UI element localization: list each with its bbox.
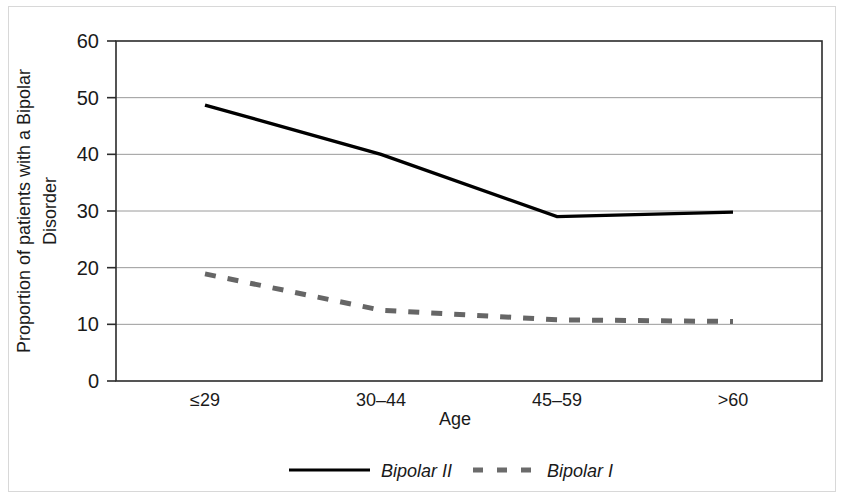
y-tick-label: 0: [88, 370, 99, 392]
x-tick-label: >60: [718, 390, 749, 410]
series-bipolar-ii-line: [205, 105, 733, 217]
y-tick-labels: 0102030405060: [77, 30, 99, 392]
series-bipolar-i-line: [205, 274, 733, 322]
chart-legend: Bipolar II Bipolar I: [289, 461, 613, 481]
y-tick-marks: [107, 41, 116, 381]
legend-label-bipolar-ii: Bipolar II: [381, 461, 452, 481]
y-tick-label: 20: [77, 257, 99, 279]
legend-label-bipolar-i: Bipolar I: [547, 461, 613, 481]
series-bipolar-ii: [205, 105, 733, 217]
x-tick-label: 45–59: [532, 390, 582, 410]
y-tick-label: 40: [77, 143, 99, 165]
x-tick-label: ≤29: [190, 390, 220, 410]
y-tick-label: 50: [77, 87, 99, 109]
y-tick-label: 30: [77, 200, 99, 222]
y-tick-label: 10: [77, 313, 99, 335]
y-axis-title-line2: Disorder: [40, 177, 60, 245]
y-tick-label: 60: [77, 30, 99, 52]
series-bipolar-i: [205, 274, 733, 322]
x-tick-label: 30–44: [356, 390, 406, 410]
x-tick-labels: ≤2930–4445–59>60: [190, 390, 748, 410]
y-axis-title-line1: Proportion of patients with a Bipolar: [14, 69, 34, 353]
chart-figure: 0102030405060 ≤2930–4445–59>60 Age Propo…: [0, 0, 844, 500]
line-chart: 0102030405060 ≤2930–4445–59>60 Age Propo…: [0, 0, 844, 500]
x-axis-title: Age: [439, 409, 471, 429]
